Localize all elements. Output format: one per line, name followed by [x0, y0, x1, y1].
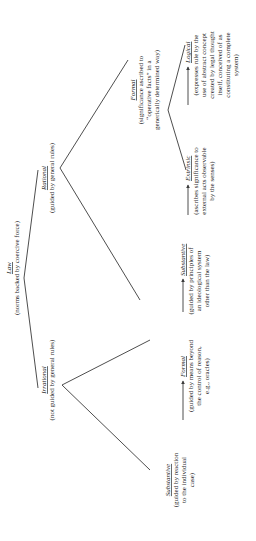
logical-line-1: (expresses rule by the — [192, 35, 200, 96]
extrinsic-line-2: external acts observable — [200, 147, 208, 214]
rational-formal-line-1: (significance ascribed to — [137, 55, 145, 124]
irrational-formal-line-1: (guided by means beyond — [187, 339, 195, 412]
irrational-title: Irrational — [40, 366, 48, 395]
node-law: Law (norms backed by coercive force) — [5, 220, 21, 315]
logical-line-2: use of abstract concept — [200, 33, 208, 97]
irrational-branch-lines — [62, 340, 150, 470]
logical-line-4: itself, conceived of as — [216, 34, 224, 95]
irrational-formal-line-2: the control of reason, — [195, 346, 203, 406]
logical-title: Logical — [184, 42, 192, 64]
extrinsic-line-3: by the senses) — [208, 161, 216, 201]
rational-title: Rational — [40, 166, 48, 191]
irrational-substantive-line-1: (guided by reaction — [172, 452, 180, 507]
diagram-svg: Law (norms backed by coercive force) Rat… — [0, 0, 256, 541]
irrational-substantive-title: Substantive — [164, 464, 172, 496]
rational-substantive-line-2: an ideological system — [195, 250, 203, 311]
law-title: Law — [5, 262, 13, 275]
rational-subtitle: (guided by general rules) — [48, 142, 56, 213]
logical-line-5: constituting a complete — [224, 32, 232, 97]
rational-formal-title: Formal — [129, 79, 137, 101]
rational-formal-line-2: “operative facts” in a — [145, 59, 153, 119]
law-subtitle: (norms backed by coercive force) — [13, 220, 21, 315]
irrational-formal-title: Formal — [179, 356, 187, 378]
rational-formal-line-3: generically determined way) — [153, 49, 161, 130]
extrinsic-title: Extrinsic — [184, 155, 192, 182]
law-branch-lines — [24, 170, 38, 388]
rational-substantive-line-1: (guided by principles of — [187, 247, 195, 315]
weber-law-typology-diagram: Law (norms backed by coercive force) Rat… — [0, 0, 256, 541]
node-logical: Logical (expresses rule by the use of ab… — [184, 31, 240, 99]
irrational-substantive-line-2: to the individual — [180, 457, 188, 503]
node-irrational-substantive: Substantive (guided by reaction to the i… — [164, 452, 196, 507]
logical-line-6: system) — [232, 53, 240, 75]
irrational-formal-line-3: e.g., oracles) — [203, 357, 211, 393]
node-irrational: Irrational (not guided by general rules) — [40, 339, 56, 421]
rational-branch-lines — [60, 60, 140, 300]
node-irrational-formal: Formal (guided by means beyond the contr… — [179, 339, 211, 412]
irrational-subtitle: (not guided by general rules) — [48, 339, 56, 421]
rational-substantive-title: Substantive — [179, 244, 187, 276]
node-rational: Rational (guided by general rules) — [40, 142, 56, 213]
rotated-diagram-group: Law (norms backed by coercive force) Rat… — [5, 31, 240, 507]
node-rational-substantive: Substantive (guided by principles of an … — [179, 244, 211, 315]
rational-substantive-line-3: other than the law) — [203, 254, 211, 307]
extrinsic-line-1: (ascribes significance to — [192, 147, 200, 215]
node-rational-formal: Formal (significance ascribed to “operat… — [129, 49, 161, 130]
logical-line-3: created by legal thought — [208, 31, 216, 99]
irrational-substantive-line-3: case) — [188, 472, 196, 487]
node-extrinsic: Extrinsic (ascribes significance to exte… — [184, 147, 216, 215]
